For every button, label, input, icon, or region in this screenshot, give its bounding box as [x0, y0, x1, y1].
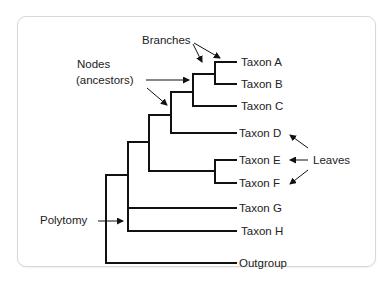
annotation-leaves: Leaves — [313, 154, 350, 166]
leaf-labels: Taxon A Taxon B Taxon C Taxon D Taxon E … — [239, 56, 287, 269]
annotation-labels: Branches Nodes (ancestors) Leaves Polyto… — [40, 34, 350, 226]
leaf-label-e: Taxon E — [239, 154, 281, 166]
tree-branches — [106, 62, 236, 263]
phylogenetic-tree: Taxon A Taxon B Taxon C Taxon D Taxon E … — [0, 0, 388, 297]
annotation-branches: Branches — [142, 34, 191, 46]
leaf-label-f: Taxon F — [239, 177, 280, 189]
annotation-ancestors: (ancestors) — [76, 74, 134, 86]
arrow-nodes-2 — [147, 88, 167, 105]
leaf-label-d: Taxon D — [239, 127, 281, 139]
leaf-label-h: Taxon H — [241, 225, 283, 237]
leaf-label-g: Taxon G — [239, 202, 282, 214]
leaf-label-b: Taxon B — [241, 78, 283, 90]
leaf-label-outgroup: Outgroup — [239, 257, 287, 269]
annotation-nodes: Nodes — [77, 58, 110, 70]
annotation-polytomy: Polytomy — [40, 214, 88, 226]
leaf-label-c: Taxon C — [241, 100, 283, 112]
arrow-branches-2 — [194, 43, 220, 58]
arrow-leaves-f — [290, 170, 308, 184]
leaf-label-a: Taxon A — [241, 56, 282, 68]
arrow-leaves-d — [290, 135, 308, 148]
